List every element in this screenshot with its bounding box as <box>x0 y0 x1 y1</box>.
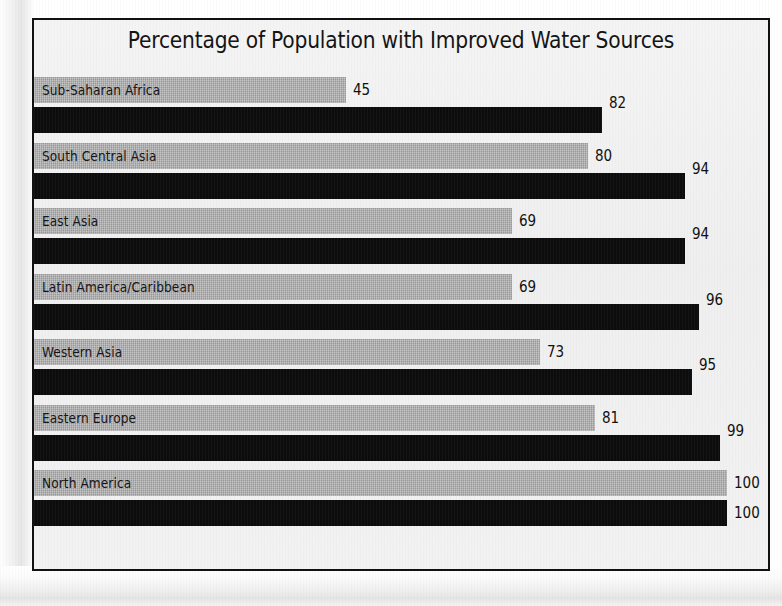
category-label: Eastern Europe <box>42 405 136 431</box>
value-label-light: 73 <box>547 339 564 365</box>
bar-group: Latin America/Caribbean6996 <box>34 274 768 330</box>
value-label-dark: 94 <box>692 156 709 182</box>
bar-light: East Asia <box>34 208 512 234</box>
scanned-page: Percentage of Population with Improved W… <box>0 0 782 606</box>
value-label-dark: 95 <box>699 352 716 378</box>
bar-dark <box>34 500 727 526</box>
page-bottom-shading <box>0 566 782 606</box>
page-left-margin-shading <box>0 0 34 606</box>
bar-dark <box>34 304 699 330</box>
bar-dark <box>34 173 685 199</box>
bar-light: South Central Asia <box>34 143 588 169</box>
bar-dark <box>34 369 692 395</box>
bar-dark <box>34 435 720 461</box>
bar-dark <box>34 107 602 133</box>
bar-group: East Asia6994 <box>34 208 768 264</box>
value-label-light: 69 <box>519 274 536 300</box>
bar-group: North America100100 <box>34 470 768 526</box>
value-label-light: 100 <box>734 470 760 496</box>
chart-frame: Percentage of Population with Improved W… <box>32 18 770 571</box>
bar-group: South Central Asia8094 <box>34 143 768 199</box>
value-label-light: 81 <box>602 405 619 431</box>
value-label-dark: 94 <box>692 221 709 247</box>
bar-group: Western Asia7395 <box>34 339 768 395</box>
category-label: Sub-Saharan Africa <box>42 77 160 103</box>
bar-chart-plot-area: Sub-Saharan Africa4582South Central Asia… <box>34 57 768 569</box>
category-label: Western Asia <box>42 339 122 365</box>
value-label-dark: 82 <box>609 90 626 116</box>
value-label-light: 69 <box>519 208 536 234</box>
bar-light: Sub-Saharan Africa <box>34 77 346 103</box>
category-label: South Central Asia <box>42 143 157 169</box>
category-label: Latin America/Caribbean <box>42 274 195 300</box>
value-label-dark: 96 <box>706 287 723 313</box>
value-label-light: 45 <box>353 77 370 103</box>
chart-title: Percentage of Population with Improved W… <box>34 25 768 55</box>
bar-light: Western Asia <box>34 339 540 365</box>
bar-group: Eastern Europe8199 <box>34 405 768 461</box>
bar-dark <box>34 238 685 264</box>
value-label-light: 80 <box>595 143 612 169</box>
bar-light: North America <box>34 470 727 496</box>
value-label-dark: 100 <box>734 500 760 526</box>
category-label: East Asia <box>42 208 98 234</box>
bar-light: Latin America/Caribbean <box>34 274 512 300</box>
bar-group: Sub-Saharan Africa4582 <box>34 77 768 133</box>
bar-light: Eastern Europe <box>34 405 595 431</box>
category-label: North America <box>42 470 131 496</box>
value-label-dark: 99 <box>727 418 744 444</box>
